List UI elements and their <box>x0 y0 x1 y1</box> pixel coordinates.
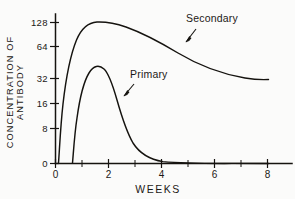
series-label-primary: Primary <box>130 68 168 80</box>
y-axis-title-line1: CONCENTRATION OF <box>5 36 15 148</box>
x-tick-label-6: 6 <box>212 169 218 180</box>
x-tick-label-8: 8 <box>265 169 271 180</box>
series-label-secondary: Secondary <box>186 12 239 24</box>
y-tick-label-0: 0 <box>42 158 48 169</box>
x-tick-label-4: 4 <box>159 169 165 180</box>
x-tick-label-0: 0 <box>53 169 59 180</box>
antibody-response-chart: 128 64 32 16 8 0 0 2 4 6 8 <box>0 0 295 199</box>
y-tick-label-8: 8 <box>42 123 48 134</box>
x-tick-label-2: 2 <box>106 169 112 180</box>
y-tick-label-64: 64 <box>37 41 48 52</box>
chart-container: 128 64 32 16 8 0 0 2 4 6 8 <box>0 0 295 199</box>
y-tick-label-32: 32 <box>37 73 48 84</box>
y-tick-label-128: 128 <box>31 17 48 28</box>
y-tick-label-16: 16 <box>37 98 48 109</box>
x-axis-title: WEEKS <box>135 183 180 195</box>
y-axis-title-line2: ANTIBODY <box>15 64 25 120</box>
